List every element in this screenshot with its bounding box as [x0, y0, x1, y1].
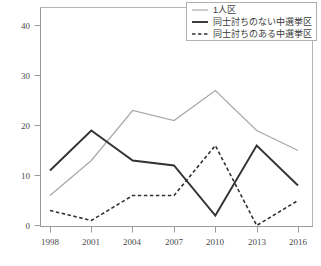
x-axis-ticks: [51, 227, 299, 233]
x-tick-label-2004: 2004: [123, 237, 142, 247]
x-axis-labels: 1998 2001 2004 2007 2010 2013 2016: [41, 237, 308, 247]
chart-canvas: 40 30 20 10 0 1998 2001 2004 2007 2010 2…: [0, 0, 321, 266]
y-tick-label: 30: [21, 71, 31, 81]
y-tick-label: 0: [26, 221, 31, 231]
x-tick-label-2001: 2001: [82, 237, 100, 247]
y-axis-ticks: [35, 26, 41, 226]
legend-label: 同士討ちのない中選挙区: [213, 16, 312, 27]
x-tick-label-2010: 2010: [206, 237, 225, 247]
x-tick-label-1998: 1998: [41, 237, 60, 247]
y-tick-label: 20: [21, 121, 31, 131]
line-chart: 40 30 20 10 0 1998 2001 2004 2007 2010 2…: [0, 0, 321, 266]
y-tick-label: 10: [21, 171, 31, 181]
x-tick-label-2016: 2016: [289, 237, 308, 247]
y-axis-labels: 40 30 20 10 0: [21, 21, 31, 231]
legend-label: 1人区: [213, 5, 236, 15]
legend: 1人区 同士討ちのない中選挙区 同士討ちのある中選挙区: [187, 3, 317, 41]
x-tick-label-2013: 2013: [248, 237, 267, 247]
x-tick-label-2007: 2007: [165, 237, 184, 247]
y-tick-label: 40: [21, 21, 31, 31]
legend-label: 同士討ちのある中選挙区: [213, 28, 312, 39]
